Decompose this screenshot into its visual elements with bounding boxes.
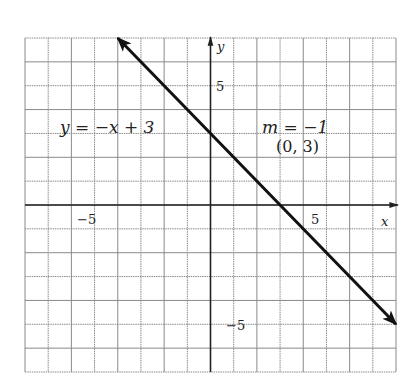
axes xyxy=(25,37,398,372)
y-axis-label: y xyxy=(216,39,225,54)
x-tick-label-neg5: −5 xyxy=(77,212,96,227)
y-tick-label-5: 5 xyxy=(216,79,224,94)
x-tick-label-5: 5 xyxy=(311,212,319,227)
slope-label: m = −1 xyxy=(262,117,328,137)
equation-label: y = −x + 3 xyxy=(59,117,154,137)
x-axis-label: x xyxy=(381,214,389,229)
y-tick-label-neg5: −5 xyxy=(226,318,245,333)
point-label: (0, 3) xyxy=(276,137,319,156)
labels: x y −5 5 5 −5 y = −x + 3 m = −1 (0, 3) xyxy=(59,39,389,333)
graph-canvas: x y −5 5 5 −5 y = −x + 3 m = −1 (0, 3) xyxy=(0,0,413,391)
